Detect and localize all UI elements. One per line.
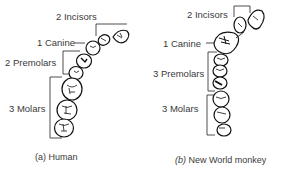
monkey-molars-label: 3 Molars: [162, 103, 198, 114]
monkey-molar-1: [213, 91, 229, 107]
human-canine: [86, 41, 100, 55]
human-premolars-label: 2 Premolars: [5, 57, 56, 68]
monkey-incisors-bracket: [234, 6, 250, 17]
human-molar-1: [62, 78, 82, 100]
human-molar-3: [55, 119, 74, 137]
monkey-premolar-2: [213, 65, 227, 77]
monkey-molar-2: [214, 107, 230, 123]
human-incisors-label: 2 Incisors: [56, 11, 97, 22]
monkey-incisors-label: 2 Incisors: [187, 9, 228, 20]
monkey-molar-3: [217, 124, 231, 136]
monkey-caption: (b) New World monkey: [175, 155, 266, 165]
human-incisor-1: [113, 30, 129, 43]
human-caption: (a) Human: [35, 152, 78, 162]
human-molars-label: 3 Molars: [9, 103, 45, 114]
human-caption-text: Human: [49, 152, 78, 162]
monkey-caption-text: New World monkey: [189, 155, 267, 165]
monkey-caption-letter: (b): [175, 155, 186, 165]
monkey-tooth-row: [213, 10, 264, 136]
monkey-incisor-1: [248, 10, 264, 29]
dentition-diagram: [0, 0, 305, 176]
monkey-premolars-label: 3 Premolars: [153, 68, 204, 79]
monkey-canine-label: 1 Canine: [163, 38, 201, 49]
human-caption-letter: (a): [35, 152, 46, 162]
human-molar-2: [57, 100, 77, 120]
monkey-premolar-1: [214, 54, 228, 66]
human-canine-label: 1 Canine: [37, 37, 75, 48]
